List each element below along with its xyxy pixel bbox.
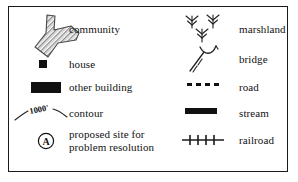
road-dashed-icon (187, 83, 219, 86)
svg-text:A: A (42, 136, 50, 147)
bridge-icon (187, 41, 231, 81)
legend-label-proposed-site-line1: proposed site for (69, 128, 145, 140)
legend-label-proposed-site-line2: problem resolution (69, 141, 154, 153)
stream-bar-icon (185, 108, 217, 114)
legend-label-other-building: other building (69, 81, 132, 94)
house-square-icon (39, 60, 47, 68)
legend-label-road: road (239, 81, 259, 94)
contour-line-icon: 1000' (13, 102, 69, 128)
other-building-rect-icon (31, 82, 61, 93)
legend-label-community: community (69, 23, 120, 36)
legend-label-contour: contour (69, 107, 103, 120)
legend-label-bridge: bridge (239, 53, 268, 66)
legend-label-stream: stream (239, 107, 269, 120)
map-legend-frame: community house other building 1000' con… (8, 6, 288, 172)
railroad-crosstie-icon (181, 132, 225, 152)
contour-elevation-text: 1000' (28, 102, 49, 116)
legend-column-right: marshland bridge (161, 7, 289, 171)
legend-label-house: house (69, 58, 95, 71)
circled-a-icon: A (36, 131, 56, 155)
legend-label-proposed-site: proposed site forproblem resolution (69, 128, 154, 153)
legend-label-marshland: marshland (239, 23, 286, 36)
legend-label-railroad: railroad (239, 134, 274, 147)
legend-column-left: community house other building 1000' con… (9, 7, 161, 171)
